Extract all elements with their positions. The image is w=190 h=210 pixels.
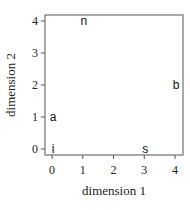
y-tick-label: 0 (32, 142, 38, 156)
y-tick-label: 1 (32, 110, 38, 124)
y-tick-label: 2 (32, 78, 38, 92)
plot-frame (45, 15, 183, 155)
x-tick-label: 0 (49, 163, 55, 177)
x-tick-label: 2 (111, 163, 117, 177)
y-axis-label: dimension 2 (3, 53, 18, 117)
y-axis: 01234 (32, 14, 45, 156)
x-axis: 01234 (49, 155, 178, 177)
x-axis-label: dimension 1 (82, 183, 146, 198)
x-tick-label: 1 (80, 163, 86, 177)
point-label-a: a (50, 110, 57, 124)
point-label-i: i (52, 142, 55, 156)
point-label-n: n (80, 14, 87, 28)
point-label-s: s (142, 142, 148, 156)
point-label-b: b (173, 78, 180, 92)
y-tick-label: 4 (32, 14, 38, 28)
x-tick-label: 4 (172, 163, 178, 177)
data-points: nbais (50, 14, 180, 156)
scatter-chart: 01234 01234 nbais dimension 1 dimension … (0, 0, 190, 210)
x-tick-label: 3 (141, 163, 147, 177)
y-tick-label: 3 (32, 46, 38, 60)
